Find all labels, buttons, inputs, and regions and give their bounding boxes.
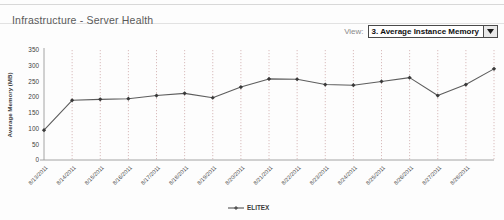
x-axis-tick-label: 8/16/2011: [112, 164, 134, 186]
x-axis-tick-labels: 8/13/20118/14/20118/15/20118/16/20118/17…: [27, 164, 470, 186]
y-axis-tick-label: 100: [28, 125, 39, 132]
y-axis-tick-label: 50: [32, 141, 40, 148]
panel-header: Infrastructure - Server Health: [0, 4, 504, 24]
x-axis-tick-label: 8/22/2011: [280, 164, 302, 186]
y-axis-title-text: Average Memory (MB): [6, 72, 13, 137]
x-axis-tick-label: 8/14/2011: [55, 164, 77, 186]
data-point-marker[interactable]: [492, 67, 496, 71]
data-point-marker[interactable]: [98, 97, 102, 101]
data-point-marker[interactable]: [351, 83, 355, 87]
server-health-panel: Infrastructure - Server Health View: 3. …: [0, 0, 504, 220]
x-axis-tick-label: 8/15/2011: [83, 164, 105, 186]
chart-container: Average Memory (MB) 05010015020025030035…: [0, 42, 504, 220]
view-selector-label: View:: [344, 27, 363, 36]
y-axis-tick-labels: 050100150200250300350: [28, 46, 39, 163]
chart-gridlines: [72, 50, 494, 160]
y-axis-tick-label: 300: [28, 62, 39, 69]
legend-marker-icon: [234, 206, 238, 210]
y-axis-tick-label: 0: [35, 156, 39, 163]
y-axis-tick-label: 150: [28, 109, 39, 116]
chart-axes: [40, 48, 494, 160]
y-axis-tick-label: 200: [28, 93, 39, 100]
view-dropdown[interactable]: 3. Average Instance Memory: [368, 25, 498, 38]
x-axis-tick-label: 8/20/2011: [224, 164, 246, 186]
data-point-marker[interactable]: [323, 82, 327, 86]
chevron-down-icon[interactable]: [483, 26, 497, 37]
x-axis-tick-label: 8/28/2011: [449, 164, 471, 186]
data-point-marker[interactable]: [126, 97, 130, 101]
y-axis-tick-label: 350: [28, 46, 39, 53]
y-axis-tick-label: 250: [28, 78, 39, 85]
chart-legend: ELITEX: [228, 204, 270, 211]
data-point-marker[interactable]: [211, 96, 215, 100]
data-point-marker[interactable]: [239, 85, 243, 89]
x-axis-tick-label: 8/27/2011: [421, 164, 443, 186]
x-axis-tick-label: 8/24/2011: [337, 164, 359, 186]
x-axis-tick-label: 8/13/2011: [27, 164, 49, 186]
average-instance-memory-line-chart: Average Memory (MB) 05010015020025030035…: [0, 42, 504, 220]
view-dropdown-value: 3. Average Instance Memory: [369, 26, 483, 37]
x-axis-tick-label: 8/19/2011: [196, 164, 218, 186]
data-point-marker[interactable]: [464, 82, 468, 86]
x-axis-tick-label: 8/25/2011: [365, 164, 387, 186]
x-axis-tick-label: 8/23/2011: [308, 164, 330, 186]
x-axis-tick-label: 8/17/2011: [140, 164, 162, 186]
view-selector: View: 3. Average Instance Memory: [344, 25, 498, 38]
data-point-marker[interactable]: [183, 91, 187, 95]
x-axis-tick-label: 8/18/2011: [168, 164, 190, 186]
data-point-marker[interactable]: [267, 77, 271, 81]
data-point-marker[interactable]: [295, 77, 299, 81]
legend-label-elitex[interactable]: ELITEX: [247, 204, 270, 211]
x-axis-tick-label: 8/26/2011: [393, 164, 415, 186]
y-axis-title: Average Memory (MB): [6, 72, 13, 137]
page-title: Infrastructure - Server Health: [12, 14, 153, 26]
data-point-marker[interactable]: [379, 79, 383, 83]
data-point-marker[interactable]: [154, 93, 158, 97]
x-axis-tick-label: 8/21/2011: [252, 164, 274, 186]
